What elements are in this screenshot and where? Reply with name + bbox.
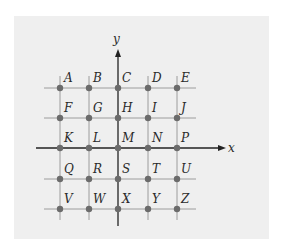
y-axis-arrow-icon: [115, 49, 121, 57]
point-label: R: [92, 162, 102, 176]
point-dot: [86, 115, 92, 121]
point-dot: [57, 206, 63, 212]
point-dot: [115, 115, 121, 121]
point-label: T: [152, 162, 161, 176]
y-axis-label: y: [112, 32, 120, 46]
point-label: X: [121, 192, 131, 206]
point-dot: [145, 176, 151, 182]
point-label: C: [122, 71, 131, 85]
point-dot: [57, 85, 63, 91]
point-dot: [86, 206, 92, 212]
point-label: Y: [152, 192, 161, 206]
point-label: L: [92, 131, 101, 145]
point-dot: [115, 206, 121, 212]
point-label: S: [122, 162, 130, 176]
point-label: M: [121, 131, 135, 145]
point-dot: [115, 145, 121, 151]
point-dot: [86, 176, 92, 182]
point-dot: [174, 145, 180, 151]
point-label: D: [151, 71, 162, 85]
point-label: A: [63, 71, 73, 85]
point-label: H: [121, 101, 133, 115]
point-dot: [145, 115, 151, 121]
point-label: Q: [64, 162, 74, 176]
point-dot: [115, 176, 121, 182]
point-label: U: [181, 162, 192, 176]
point-dot: [57, 115, 63, 121]
point-label: V: [64, 192, 74, 206]
point-label: F: [63, 101, 73, 115]
point-label: I: [151, 101, 157, 115]
point-label: B: [92, 71, 102, 85]
point-dot: [86, 145, 92, 151]
point-dot: [145, 145, 151, 151]
grid-points: ABCDEFGHIJKLMNPQRSTUVWXYZ: [57, 71, 192, 212]
point-dot: [174, 85, 180, 91]
point-dot: [174, 206, 180, 212]
point-label: P: [180, 131, 190, 145]
point-dot: [174, 176, 180, 182]
point-label: N: [151, 131, 163, 145]
point-label: W: [93, 192, 107, 206]
point-label: E: [180, 71, 190, 85]
x-axis-arrow-icon: [218, 145, 226, 151]
point-dot: [174, 115, 180, 121]
x-axis-label: x: [228, 141, 235, 155]
coordinate-grid-diagram: x y ABCDEFGHIJKLMNPQRSTUVWXYZ: [0, 0, 282, 245]
point-dot: [115, 85, 121, 91]
point-label: K: [63, 131, 74, 145]
point-dot: [57, 176, 63, 182]
point-label: Z: [180, 192, 190, 206]
point-dot: [57, 145, 63, 151]
point-dot: [145, 85, 151, 91]
point-dot: [145, 206, 151, 212]
point-dot: [86, 85, 92, 91]
point-label: G: [93, 101, 103, 115]
point-label: J: [178, 101, 187, 115]
